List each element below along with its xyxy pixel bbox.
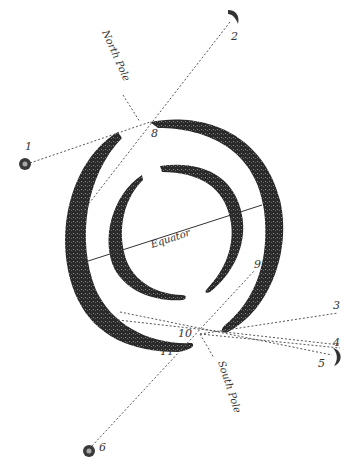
south-pole-line — [200, 334, 214, 358]
south-pole-label: South Pole — [216, 359, 243, 414]
point-label-2: 2 — [230, 30, 238, 43]
point-label-10: 10 — [178, 327, 192, 340]
ray-10-4 — [200, 334, 340, 348]
point-label-4: 4 — [332, 336, 340, 349]
north-pole-label: North Pole — [100, 27, 133, 82]
point-label-6: 6 — [99, 441, 106, 454]
point-label-1: 1 — [25, 140, 32, 153]
point-label-5: 5 — [318, 357, 325, 370]
sun-icon-6 — [83, 445, 95, 457]
point-label-7: 7 — [80, 208, 87, 221]
inner-ring-right-arc — [160, 165, 243, 293]
ray-1-8 — [30, 122, 150, 163]
point-label-8: 8 — [151, 127, 158, 140]
outer-ring-right-arc — [150, 119, 283, 332]
point-label-11: 11 — [160, 345, 174, 358]
equator-label: Equator — [148, 226, 192, 250]
sun-icon-1 — [19, 158, 31, 170]
ray-10-3 — [200, 313, 338, 334]
north-pole-line — [123, 95, 140, 122]
point-label-3: 3 — [333, 299, 340, 312]
point-label-9: 9 — [254, 258, 261, 271]
ray-2-7 — [80, 22, 230, 215]
crescent-moon-icon-5 — [333, 348, 341, 366]
diagram-canvas: Equator North Pole South Pole 1 2 3 4 5 … — [0, 0, 361, 475]
